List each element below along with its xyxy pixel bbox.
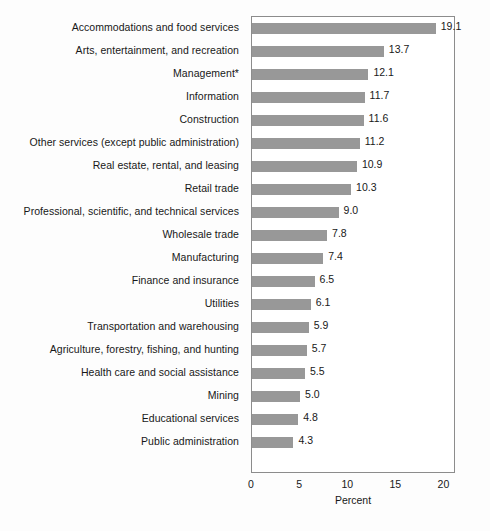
bar-value-label: 4.8 xyxy=(303,411,318,424)
category-label-row: Arts, entertainment, and recreation xyxy=(0,39,245,62)
x-axis-title: Percent xyxy=(251,494,455,506)
value-label-row: 7.4 xyxy=(251,246,490,269)
category-label: Other services (except public administra… xyxy=(30,137,239,148)
category-label: Transportation and warehousing xyxy=(87,321,239,332)
bar-value-label: 10.3 xyxy=(356,181,376,194)
category-label: Management* xyxy=(173,68,239,79)
bar-value-label: 12.1 xyxy=(373,66,393,79)
category-label: Accommodations and food services xyxy=(72,22,239,33)
category-label: Construction xyxy=(179,114,239,125)
value-label-row: 10.3 xyxy=(251,177,490,200)
value-label-row: 5.0 xyxy=(251,384,490,407)
category-label: Real estate, rental, and leasing xyxy=(93,160,239,171)
value-label-row: 13.7 xyxy=(251,39,490,62)
bar-value-label: 5.7 xyxy=(312,342,327,355)
category-label-row: Wholesale trade xyxy=(0,223,245,246)
value-label-row: 4.8 xyxy=(251,407,490,430)
value-label-row: 7.8 xyxy=(251,223,490,246)
category-label-row: Utilities xyxy=(0,292,245,315)
bar-value-label: 4.3 xyxy=(298,434,313,447)
value-label-row: 6.5 xyxy=(251,269,490,292)
category-label: Retail trade xyxy=(185,183,239,194)
x-tick-label: 5 xyxy=(296,478,302,490)
category-label: Mining xyxy=(208,390,239,401)
category-label: Public administration xyxy=(141,436,239,447)
category-label-row: Professional, scientific, and technical … xyxy=(0,200,245,223)
category-label: Finance and insurance xyxy=(132,275,239,286)
x-tick-label: 20 xyxy=(438,478,450,490)
bar-value-label: 11.6 xyxy=(369,112,389,125)
x-axis-ticks: 05101520 xyxy=(251,474,455,494)
value-label-row: 5.7 xyxy=(251,338,490,361)
category-label-row: Public administration xyxy=(0,430,245,453)
value-label-row: 11.2 xyxy=(251,131,490,154)
value-label-row: 9.0 xyxy=(251,200,490,223)
category-label-row: Accommodations and food services xyxy=(0,16,245,39)
category-label-row: Agriculture, forestry, fishing, and hunt… xyxy=(0,338,245,361)
category-label: Professional, scientific, and technical … xyxy=(24,206,239,217)
category-axis-labels: Accommodations and food servicesArts, en… xyxy=(0,16,245,453)
x-tick-label: 10 xyxy=(341,478,353,490)
value-label-row: 12.1 xyxy=(251,62,490,85)
category-label-row: Mining xyxy=(0,384,245,407)
category-label-row: Manufacturing xyxy=(0,246,245,269)
bar-chart-figure: Accommodations and food servicesArts, en… xyxy=(0,0,490,531)
x-tick-label: 0 xyxy=(248,478,254,490)
category-label-row: Health care and social assistance xyxy=(0,361,245,384)
category-label-row: Real estate, rental, and leasing xyxy=(0,154,245,177)
bar-value-label: 13.7 xyxy=(389,43,409,56)
category-label-row: Other services (except public administra… xyxy=(0,131,245,154)
bar-value-label: 19.1 xyxy=(441,20,461,33)
category-label: Health care and social assistance xyxy=(81,367,239,378)
x-tick-label: 15 xyxy=(389,478,401,490)
bar-value-label: 5.5 xyxy=(310,365,325,378)
bar-value-label: 7.8 xyxy=(332,227,347,240)
value-label-row: 6.1 xyxy=(251,292,490,315)
category-label: Arts, entertainment, and recreation xyxy=(76,45,239,56)
category-label-row: Information xyxy=(0,85,245,108)
value-label-row: 19.1 xyxy=(251,16,490,39)
category-label: Manufacturing xyxy=(172,252,239,263)
bar-value-labels: 19.113.712.111.711.611.210.910.39.07.87.… xyxy=(251,16,490,473)
bar-value-label: 10.9 xyxy=(362,158,382,171)
category-label: Agriculture, forestry, fishing, and hunt… xyxy=(50,344,239,355)
bar-value-label: 7.4 xyxy=(328,250,343,263)
category-label-row: Management* xyxy=(0,62,245,85)
category-label: Educational services xyxy=(142,413,239,424)
category-label-row: Transportation and warehousing xyxy=(0,315,245,338)
value-label-row: 11.6 xyxy=(251,108,490,131)
value-label-row: 4.3 xyxy=(251,430,490,453)
bar-value-label: 5.9 xyxy=(314,319,329,332)
category-label-row: Finance and insurance xyxy=(0,269,245,292)
category-label: Utilities xyxy=(205,298,239,309)
value-label-row: 5.5 xyxy=(251,361,490,384)
bar-value-label: 11.2 xyxy=(365,135,385,148)
category-label-row: Construction xyxy=(0,108,245,131)
category-label-row: Retail trade xyxy=(0,177,245,200)
value-label-row: 10.9 xyxy=(251,154,490,177)
value-label-row: 5.9 xyxy=(251,315,490,338)
bar-value-label: 6.5 xyxy=(320,273,335,286)
category-label: Wholesale trade xyxy=(162,229,239,240)
bar-value-label: 5.0 xyxy=(305,388,320,401)
category-label-row: Educational services xyxy=(0,407,245,430)
bar-value-label: 6.1 xyxy=(316,296,331,309)
value-label-row: 11.7 xyxy=(251,85,490,108)
bar-value-label: 9.0 xyxy=(344,204,359,217)
bar-value-label: 11.7 xyxy=(370,89,390,102)
category-label: Information xyxy=(186,91,239,102)
